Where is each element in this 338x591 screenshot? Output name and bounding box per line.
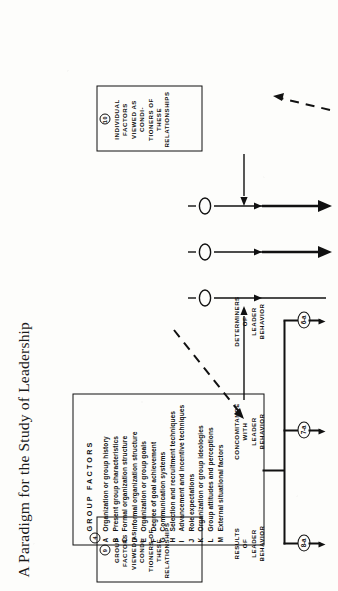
dashed-link-group: [174, 330, 240, 413]
arrowhead-individual-conditioners: [240, 197, 247, 206]
arrowhead-results: [254, 295, 262, 302]
arrowhead-concomitance: [254, 249, 262, 256]
node-circle-6a: [199, 198, 210, 214]
arrowhead-dashed-group: [234, 408, 244, 419]
node-circle-8a: [199, 290, 210, 306]
arrowhead-dashed-individual: [273, 93, 284, 101]
arrowhead-determiners: [254, 203, 262, 210]
arrowhead-group-conditioners: [240, 306, 247, 315]
dashed-link-individual: [280, 98, 330, 110]
connector-overlay: [0, 0, 338, 591]
node-circle-7a: [199, 244, 210, 260]
output-arrowhead-concomitance: [318, 246, 332, 258]
output-arrowhead-determiners: [318, 200, 332, 212]
